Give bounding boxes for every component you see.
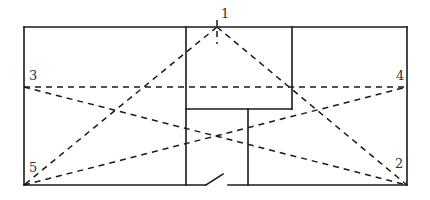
point-label-3: 3 <box>29 68 37 83</box>
point-label-1: 1 <box>221 6 229 21</box>
point-label-2: 2 <box>395 156 403 171</box>
inner-room <box>186 27 292 185</box>
sightline-1-5 <box>24 27 217 185</box>
outer-walls <box>24 27 407 185</box>
door-leaf <box>206 174 223 185</box>
point-label-5: 5 <box>29 160 37 175</box>
point-label-4: 4 <box>396 68 404 83</box>
sightlines <box>24 20 407 185</box>
floor-plan-diagram: 1 2 3 4 5 <box>0 0 430 200</box>
